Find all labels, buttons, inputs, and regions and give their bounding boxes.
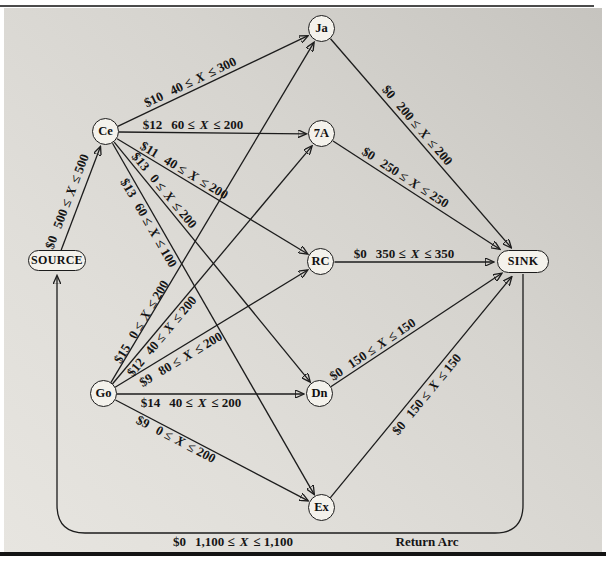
arc-label-go-ex: $90 ≤X≤ 200	[134, 412, 218, 466]
node-ja: Ja	[308, 15, 335, 42]
arc-ce-ja	[118, 36, 308, 127]
arc-label-ce-ja: $1040 ≤X≤ 300	[142, 54, 239, 111]
arc-ex-sink	[330, 277, 511, 498]
arc-return-sink-source	[57, 274, 523, 533]
arc-label-go-dn: $1440 ≤X≤ 200	[141, 395, 241, 410]
arc-ja-sink	[331, 39, 512, 248]
arc-layer: $0500 ≤X≤ 500 $1040 ≤X≤ 300 $1260 ≤X≤ 20…	[0, 0, 606, 562]
node-ce: Ce	[92, 118, 119, 145]
arc-label-ja-sink: $0200 ≤X≤ 200	[379, 82, 456, 168]
arc-ce-7a	[119, 132, 306, 134]
node-7a: 7A	[308, 120, 335, 147]
arc-label-dn-sink: $0150 ≤X≤ 150	[327, 315, 419, 384]
arc-label-ce-rc: $1140 ≤X≤ 200	[138, 138, 231, 202]
arc-label-return: $01,100 ≤X≤ 1,100	[173, 534, 293, 549]
node-sink: SINK	[497, 250, 549, 273]
arc-label-ce-7a: $1260 ≤X≤ 200	[143, 117, 243, 132]
arc-label-rc-sink: $0350 ≤X≤ 350	[354, 246, 454, 261]
node-rc: RC	[307, 248, 334, 275]
node-source: SOURCE	[28, 250, 86, 271]
arc-lines	[57, 36, 523, 533]
node-go: Go	[90, 380, 117, 407]
node-ex: Ex	[308, 494, 335, 521]
arc-7a-sink	[333, 141, 500, 249]
return-arc-caption: Return Arc	[396, 534, 459, 549]
arc-label-go-ja: $150 ≤X≤ 200	[111, 278, 172, 366]
arc-dn-sink	[331, 274, 502, 387]
figure-network-flow-diagram: $0500 ≤X≤ 500 $1040 ≤X≤ 300 $1260 ≤X≤ 20…	[0, 0, 606, 562]
node-dn: Dn	[306, 380, 333, 407]
arc-label-ex-sink: $0150 ≤X≤ 150	[389, 351, 464, 438]
